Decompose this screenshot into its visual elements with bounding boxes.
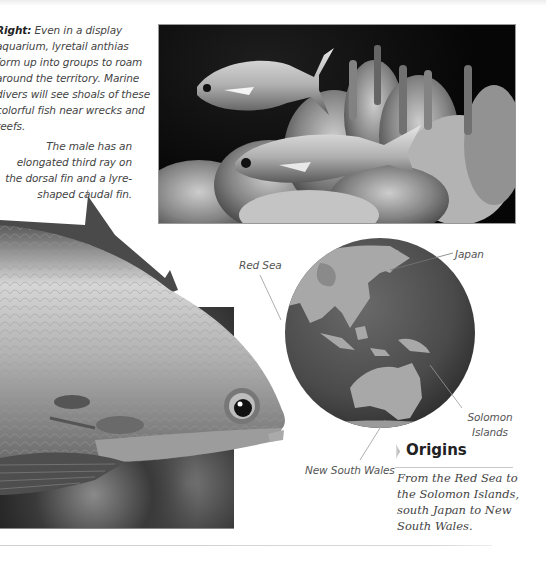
label-solomon-line2: Islands (460, 425, 520, 440)
caption-right: Right: Even in a display aquarium, lyret… (0, 22, 156, 134)
caption-right-text: Even in a display aquarium, lyretail ant… (0, 24, 150, 132)
label-solomon-line1: Solomon (460, 410, 520, 425)
pectoral-fin (0, 452, 125, 495)
page-top-edge (0, 0, 546, 6)
globe-map (280, 238, 480, 438)
label-red-sea: Red Sea (239, 258, 282, 273)
section-marker-icon (396, 444, 400, 459)
origins-divider (395, 467, 513, 468)
origins-heading: Origins (406, 441, 467, 459)
page-bottom-divider (0, 545, 492, 546)
caption-lead: Right: (0, 24, 31, 36)
label-solomon-islands: Solomon Islands (460, 410, 520, 440)
origins-body: From the Red Sea to the Solomon Islands,… (397, 470, 527, 534)
label-new-south-wales: New South Wales (305, 463, 395, 478)
fish-closeup-photo (0, 190, 290, 530)
label-japan: Japan (455, 247, 484, 262)
